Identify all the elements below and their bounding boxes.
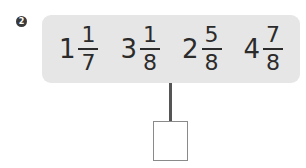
whole-part: 3 <box>120 36 137 62</box>
fraction: 7 8 <box>263 24 283 74</box>
mixed-number-2: 3 1 8 <box>120 24 160 74</box>
fraction: 1 8 <box>140 24 160 74</box>
numerator: 7 <box>266 24 280 46</box>
numerator: 1 <box>81 24 95 46</box>
numerator: 5 <box>205 24 219 46</box>
denominator: 8 <box>205 52 219 74</box>
problem-number-badge: 2 <box>16 16 27 27</box>
connector-line <box>169 83 172 121</box>
numerator: 1 <box>143 24 157 46</box>
mixed-number-1: 1 1 7 <box>59 24 99 74</box>
whole-part: 4 <box>244 36 261 62</box>
number-panel: 1 1 7 3 1 8 2 5 8 4 7 8 <box>42 15 300 83</box>
mixed-number-4: 4 7 8 <box>244 24 284 74</box>
fraction: 1 7 <box>78 24 98 74</box>
denominator: 8 <box>143 52 157 74</box>
whole-part: 1 <box>59 36 76 62</box>
denominator: 7 <box>81 52 95 74</box>
mixed-number-3: 2 5 8 <box>182 24 222 74</box>
answer-box[interactable] <box>153 121 188 161</box>
fraction: 5 8 <box>202 24 222 74</box>
denominator: 8 <box>266 52 280 74</box>
whole-part: 2 <box>182 36 199 62</box>
